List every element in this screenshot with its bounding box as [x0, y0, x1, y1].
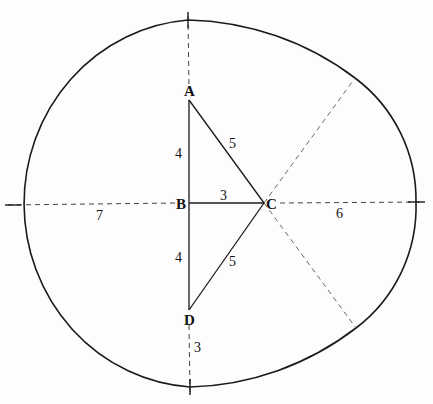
length-label-bottom: 3 — [194, 340, 201, 355]
point-label-B: B — [176, 196, 186, 212]
length-label-AC: 5 — [229, 136, 236, 151]
length-label-DC: 5 — [229, 254, 236, 269]
length-label-right: 6 — [336, 206, 343, 221]
length-label-left: 7 — [96, 208, 103, 223]
length-label-AB: 4 — [175, 146, 182, 161]
egg-construction-diagram: A B C D 4 4 5 5 3 7 6 3 — [0, 0, 433, 404]
dashed-horizontal-right — [280, 202, 424, 203]
length-label-BD: 4 — [175, 250, 182, 265]
point-label-A: A — [184, 83, 195, 99]
dashed-diagonal-lower — [264, 203, 356, 328]
point-label-C: C — [266, 196, 277, 212]
segment-DC — [189, 203, 264, 310]
dashed-horizontal-left — [8, 203, 176, 205]
dashed-diagonal-upper — [264, 78, 355, 203]
length-label-BC: 3 — [220, 188, 227, 203]
point-label-D: D — [184, 312, 195, 328]
diagram-canvas: A B C D 4 4 5 5 3 7 6 3 — [0, 0, 433, 404]
